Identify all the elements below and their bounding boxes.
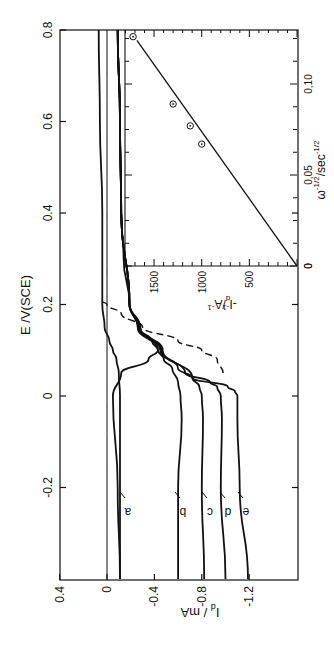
current-tick-label: 0.4: [53, 586, 67, 603]
inset-data-point-center: [201, 143, 203, 145]
current-tick-label: -0.4: [147, 586, 161, 607]
inset-data: [130, 33, 297, 266]
current-tick-label: 0: [100, 586, 114, 593]
current-tick-label: -1.2: [242, 586, 256, 607]
inset-recip-tick-label: 1000: [197, 271, 208, 294]
inset-omega-tick-label: 0,10: [303, 74, 314, 94]
inset-x-title-unit-sup: -1/2: [312, 140, 321, 154]
curve-label-a: a: [124, 505, 131, 519]
chart-figure: -0.200.20.40.60.8 0.40-0.4-0.8-1.2 E /V(…: [0, 0, 334, 649]
curve-labels: abcde: [120, 492, 249, 519]
inset-y-title-unit-sup: -1: [207, 303, 215, 312]
inset-origin-label: 0: [303, 263, 314, 269]
e-tick-label: 0.6: [41, 113, 55, 130]
e-tick-label: 0.4: [41, 204, 55, 221]
e-tick-label: 0: [41, 392, 55, 399]
curve-label-d: d: [225, 505, 232, 519]
curve-label-b: b: [179, 505, 186, 519]
current-axis-title-unit: / mA: [180, 605, 211, 620]
inset-data-point-center: [172, 103, 174, 105]
current-axis-tick-labels: 0.40-0.4-0.8-1.2: [53, 586, 257, 607]
curve-label-c: c: [207, 505, 213, 519]
inset-recip-tick-label: 1500: [149, 271, 160, 294]
inset-data-point-center: [189, 125, 191, 127]
inset-x-title-unit: /sec: [314, 154, 328, 176]
inset-recip-tick-label: 500: [244, 271, 255, 288]
e-axis-tick-labels: -0.200.20.40.60.8: [41, 21, 55, 498]
curve-c: [118, 30, 205, 579]
curve-label-e: e: [242, 505, 249, 519]
e-tick-label: -0.2: [41, 477, 55, 498]
e-tick-label: 0.2: [41, 296, 55, 313]
inset-x-title-main: ω: [314, 190, 328, 199]
current-tick-label: -0.8: [195, 586, 209, 607]
svg-text:ω-1/2/sec-1/2: ω-1/2/sec-1/2: [312, 140, 328, 200]
curve-a-reverse: [99, 30, 120, 579]
svg-text:-I-1d/A-1: -I-1d/A-1: [207, 294, 237, 312]
inset-fit-line: [137, 40, 297, 266]
inset-y-axis-title: -I-1d/A-1: [207, 294, 237, 312]
inset-x-axis-title: ω-1/2/sec-1/2: [312, 140, 328, 200]
e-tick-label: 0.8: [41, 21, 55, 38]
inset-y-title-unit: /A: [214, 297, 225, 311]
inset-data-point-center: [132, 36, 134, 38]
current-axis-ticks: [60, 574, 250, 580]
inset-x-title-sup: -1/2: [312, 176, 321, 190]
curve-b: [118, 30, 182, 579]
e-axis-title: E /V(SCE): [18, 275, 33, 335]
